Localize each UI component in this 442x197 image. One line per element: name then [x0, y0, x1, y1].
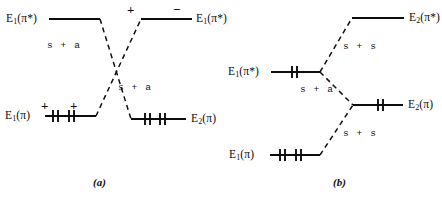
level-label-paren: (π): [419, 98, 433, 110]
level-label-paren: (π*): [207, 12, 227, 24]
level-label-paren: (π): [202, 112, 216, 124]
correlation-label-b-middle: s + a: [300, 84, 334, 95]
correlation-label-b-lower: s + s: [343, 128, 377, 139]
level-label-a-lower-left: E1(π): [5, 109, 30, 123]
level-label-paren: (π*): [239, 65, 259, 77]
level-label-paren: (π): [240, 148, 254, 160]
correlation-label-b-upper: s + s: [343, 41, 377, 52]
panel-a-graphics: [45, 19, 192, 125]
correlation-line-a-upperleft-to-lowerright: [100, 19, 131, 119]
diagram-canvas: [0, 0, 442, 197]
panel-b-graphics: [270, 18, 404, 161]
level-label-paren: (π): [16, 109, 30, 121]
phase-sign-a-upper-right-minus: −: [173, 3, 180, 16]
phase-sign-a-lower-left-plus-2: +: [70, 99, 77, 112]
level-label-b-bottom-left: E1(π): [229, 148, 254, 162]
correlation-label-a-upper: s + a: [47, 40, 81, 51]
level-label-paren: (π*): [420, 11, 440, 23]
phase-sign-a-lower-left-plus-1: +: [41, 99, 48, 112]
level-label-b-middle-right: E2(π): [408, 98, 433, 112]
level-label-b-middle-left: E1(π*): [228, 65, 259, 79]
correlation-line-a-lowerleft-to-upperright: [96, 19, 141, 116]
level-label-a-upper-left: E1(π*): [6, 12, 37, 26]
orbital-correlation-figure: E1(π*) E1(π*) E1(π) E2(π) + − + + s + a …: [0, 0, 442, 197]
correlation-label-a-lower: s + a: [118, 82, 152, 93]
phase-sign-a-upper-right-plus: +: [127, 3, 134, 16]
level-label-paren: (π*): [17, 12, 37, 24]
panel-caption-a: (a): [93, 176, 106, 188]
level-label-a-upper-right: E1(π*): [196, 12, 227, 26]
level-label-a-lower-right: E2(π): [191, 112, 216, 126]
panel-caption-b: (b): [333, 176, 346, 188]
level-label-b-top-right: E2(π*): [409, 11, 440, 25]
